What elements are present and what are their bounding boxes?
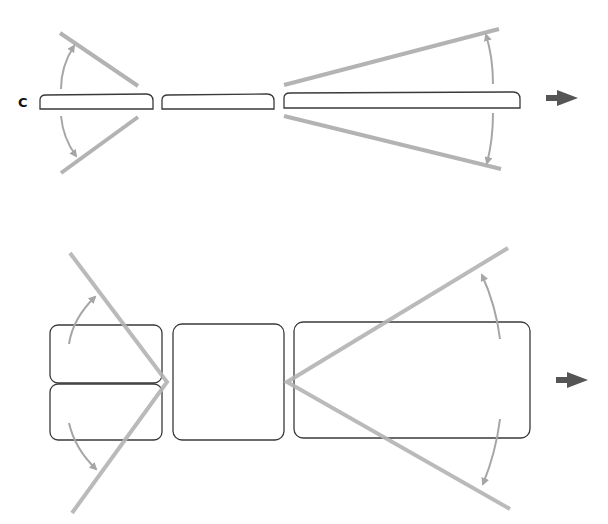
segment-1 [40, 94, 153, 109]
right-arrow-icon [546, 90, 578, 106]
angle-arrow-icon [487, 113, 493, 163]
top-panel [40, 29, 578, 173]
block-right [294, 322, 530, 438]
angle-arrow-icon [61, 46, 74, 89]
segment-3 [284, 92, 520, 108]
segment-2 [162, 94, 274, 109]
block-middle [173, 324, 284, 440]
angle-arrow-icon [486, 35, 493, 84]
ray-top-left-lower [61, 117, 138, 173]
bottom-panel [50, 248, 588, 513]
ray-top-right-lower [284, 116, 501, 169]
ray-top-right-upper [284, 29, 499, 85]
diagram-canvas [0, 0, 608, 524]
angle-arrow-icon [61, 116, 76, 156]
right-arrow-icon [556, 372, 588, 388]
ray-top-left-upper [60, 33, 138, 86]
